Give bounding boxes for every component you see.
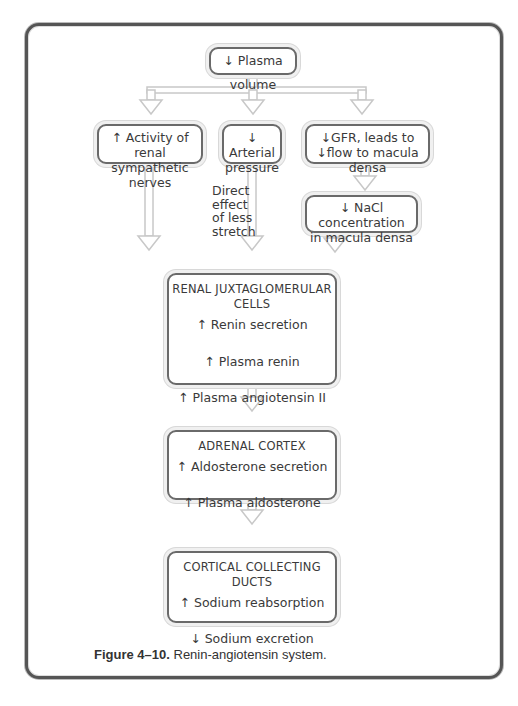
plasma-volume-label: ↓ Plasma volume [211, 49, 295, 97]
aldosterone-secretion: ↑ Aldosterone secretion [169, 459, 335, 474]
sodium-reabsorption: ↑ Sodium reabsorption [169, 595, 335, 610]
sodium-excretion: ↓ Sodium excretion [169, 631, 335, 646]
renin-secretion: ↑ Renin secretion [169, 317, 335, 332]
adrenal-title: ADRENAL CORTEX [169, 439, 335, 454]
sympathetic-nerves-box: ↑ Activity of renal sympathetic nerves [97, 124, 203, 164]
cortical-collecting-box: CORTICAL COLLECTING DUCTS ↑ Sodium reabs… [167, 551, 337, 623]
cortical-title: CORTICAL COLLECTING DUCTS [169, 560, 335, 590]
figure-label: Figure 4–10. [94, 647, 170, 662]
arterial-pressure-box: ↓ Arterial pressure [222, 124, 282, 164]
arterial-line2: pressure [224, 160, 280, 175]
plasma-angiotensin: ↑ Plasma angiotensin II [169, 390, 335, 405]
sympathetic-line2: sympathetic nerves [99, 160, 201, 190]
gfr-box: ↓GFR, leads to ↓flow to macula densa [305, 124, 430, 164]
plasma-volume-box: ↓ Plasma volume [209, 47, 297, 75]
plasma-aldosterone: ↑ Plasma aldosterone [169, 495, 335, 510]
adrenal-cortex-box: ADRENAL CORTEX ↑ Aldosterone secretion ↑… [167, 430, 337, 500]
figure-caption: Figure 4–10. Renin-angiotensin system. [94, 647, 327, 662]
sympathetic-line1: ↑ Activity of renal [99, 130, 201, 160]
gfr-line1: ↓GFR, leads to [307, 130, 428, 145]
direct-effect-label: Direct effect of less stretch [212, 184, 256, 238]
juxta-title: RENAL JUXTAGLOMERULAR CELLS [169, 282, 335, 312]
juxtaglomerular-box: RENAL JUXTAGLOMERULAR CELLS ↑ Renin secr… [167, 273, 337, 385]
nacl-line1: ↓ NaCl concentration [307, 200, 416, 230]
gfr-line2: ↓flow to macula densa [307, 145, 428, 175]
arterial-line1: ↓ Arterial [224, 130, 280, 160]
caption-text: Renin-angiotensin system. [170, 647, 327, 662]
nacl-line2: in macula densa [307, 230, 416, 245]
nacl-box: ↓ NaCl concentration in macula densa [305, 195, 418, 233]
plasma-renin: ↑ Plasma renin [169, 354, 335, 369]
